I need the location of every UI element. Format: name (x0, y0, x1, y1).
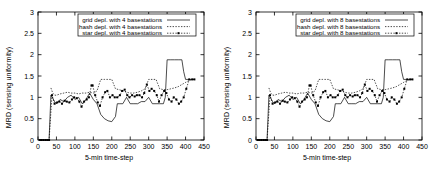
series-point-2 (356, 94, 358, 96)
x-tick-label: 450 (198, 143, 210, 150)
series-point-2 (352, 95, 354, 97)
series-point-2 (161, 94, 163, 96)
series-point-2 (361, 92, 363, 94)
x-tick-label: 350 (161, 143, 173, 150)
series-point-2 (349, 94, 351, 96)
x-tick-label: 200 (324, 143, 336, 150)
x-axis-title-label: 5-min time-step (85, 154, 133, 161)
chart-panel-right: MRD (sensing uniformity) 00.511.522.5305… (218, 0, 436, 174)
series-point-2 (261, 139, 263, 141)
series-point-2 (330, 94, 332, 96)
series-point-2 (342, 89, 344, 91)
series-point-2 (332, 96, 334, 98)
series-point-2 (71, 98, 73, 100)
series-point-2 (64, 100, 66, 102)
series-point-2 (163, 90, 165, 92)
x-tick-label: 450 (416, 143, 428, 150)
series-point-2 (374, 94, 376, 96)
x-tick-label: 0 (36, 143, 40, 150)
series-point-2 (272, 103, 274, 105)
series-point-2 (43, 139, 45, 141)
series-point-2 (86, 98, 88, 100)
series-point-2 (344, 94, 346, 96)
series-point-2 (406, 78, 408, 80)
series-point-2 (73, 96, 75, 98)
series-point-2 (310, 84, 312, 86)
series-point-2 (44, 139, 46, 141)
series-point-2 (346, 96, 348, 98)
series-point-2 (81, 106, 83, 108)
series-point-2 (188, 78, 190, 80)
series-point-2 (146, 84, 148, 86)
series-point-2 (185, 88, 187, 90)
series-point-2 (151, 88, 153, 90)
plot-area-right: 00.511.522.53050100150200250300350400450… (218, 0, 436, 174)
series-point-2 (266, 139, 268, 141)
x-axis-title: 5-min time-step (0, 154, 218, 161)
series-point-2 (39, 139, 41, 141)
series-point-2 (83, 101, 85, 103)
legend-label-2: star depl. with 8 basestations (300, 29, 380, 36)
series-point-2 (320, 96, 322, 98)
series-point-2 (322, 91, 324, 93)
x-tick-label: 300 (143, 143, 155, 150)
series-point-2 (274, 101, 276, 103)
series-point-2 (411, 78, 413, 80)
series-point-2 (180, 101, 182, 103)
series-point-2 (264, 139, 266, 141)
y-tick-label: 1 (248, 94, 252, 101)
series-point-2 (294, 97, 296, 99)
series-point-2 (48, 139, 50, 141)
series-point-2 (339, 90, 341, 92)
series-point-2 (381, 90, 383, 92)
series-point-2 (171, 101, 173, 103)
plot-area-left: 00.511.522.53050100150200250300350400450… (0, 0, 218, 174)
series-point-2 (97, 101, 99, 103)
y-tick-label: 3 (30, 9, 34, 16)
series-point-2 (315, 101, 317, 103)
series-point-2 (68, 101, 70, 103)
series-point-2 (337, 94, 339, 96)
series-point-2 (312, 94, 314, 96)
series-point-2 (112, 94, 114, 96)
series-point-2 (304, 98, 306, 100)
series-point-2 (88, 96, 90, 98)
series-point-2 (193, 78, 195, 80)
series-point-2 (51, 94, 53, 96)
series-point-2 (324, 90, 326, 92)
series-point-2 (56, 101, 58, 103)
series-point-2 (78, 101, 80, 103)
series-point-2 (124, 89, 126, 91)
series-point-2 (286, 101, 288, 103)
series-line-2 (258, 79, 413, 140)
x-axis-title: 5-min time-step (218, 154, 436, 161)
x-tick-label: 300 (361, 143, 373, 150)
series-point-2 (126, 94, 128, 96)
series-point-2 (106, 90, 108, 92)
series-point-2 (284, 101, 286, 103)
series-point-2 (136, 94, 138, 96)
x-tick-label: 0 (254, 143, 258, 150)
figure-two-panel-line-charts: MRD (sensing uniformity) 00.511.522.5305… (0, 0, 436, 174)
series-line-1 (51, 79, 195, 95)
series-point-2 (369, 88, 371, 90)
series-point-2 (58, 101, 60, 103)
series-point-2 (119, 94, 121, 96)
series-point-2 (391, 96, 393, 98)
series-point-2 (76, 97, 78, 99)
series-line-1 (269, 79, 413, 95)
series-point-2 (276, 101, 278, 103)
x-tick-label: 200 (106, 143, 118, 150)
series-point-2 (116, 96, 118, 98)
series-point-2 (354, 94, 356, 96)
x-tick-label: 100 (69, 143, 81, 150)
series-point-2 (131, 94, 133, 96)
series-point-2 (61, 103, 63, 105)
series-point-2 (409, 78, 411, 80)
y-tick-label: 1 (30, 94, 34, 101)
x-tick-label: 50 (53, 143, 61, 150)
series-point-2 (148, 90, 150, 92)
y-tick-label: 1.5 (24, 73, 34, 80)
series-point-2 (371, 90, 373, 92)
series-point-2 (94, 94, 96, 96)
